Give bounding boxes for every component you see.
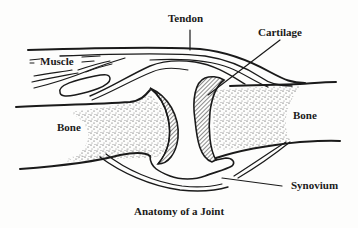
label-muscle: Muscle — [40, 56, 74, 67]
label-cartilage: Cartilage — [258, 27, 302, 38]
bone-right-stipple — [212, 86, 300, 150]
tendon-inner-line — [60, 54, 292, 86]
label-synovium: Synovium — [291, 180, 338, 191]
diagram-title: Anatomy of a Joint — [134, 206, 224, 217]
label-tendon: Tendon — [168, 13, 203, 24]
joint-anatomy-diagram: Tendon Cartilage Muscle Bone Bone Synovi… — [0, 0, 358, 228]
bone-right-top-edge — [230, 82, 336, 86]
synovium-leader-line — [222, 178, 282, 186]
label-bone-left: Bone — [57, 122, 81, 133]
label-bone-right: Bone — [293, 110, 317, 121]
